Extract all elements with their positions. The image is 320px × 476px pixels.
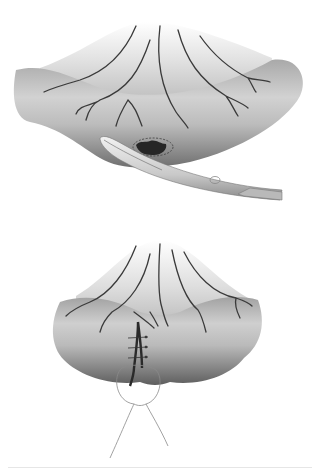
illustration-panel-bottom: Bowel closed with interrupted sutures; p… — [0, 236, 320, 476]
illustration-panel-top: Bowel loop with mesentery; curved scisso… — [0, 0, 320, 236]
bowel-closure-illustration — [0, 236, 320, 476]
page-divider — [8, 467, 312, 468]
bowel-excision-illustration — [0, 0, 320, 236]
